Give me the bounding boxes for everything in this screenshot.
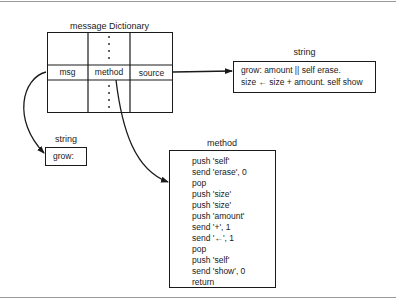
method-line: push 'amount' [192, 211, 244, 222]
arrow-msg-to-string [24, 72, 46, 153]
msg-string-label: string [45, 134, 87, 144]
method-line: send '←', 1 [192, 233, 234, 244]
method-line: pop [192, 244, 206, 255]
msg-string-value: grow: [53, 151, 74, 162]
column-msg: msg [47, 67, 88, 77]
source-string-label: string [233, 47, 376, 57]
method-line: send '+', 1 [192, 222, 230, 233]
column-method: method [88, 67, 130, 77]
column-source: source [130, 68, 173, 78]
method-line: push 'size' [192, 189, 231, 200]
source-line-2: size ← size + amount. self show [241, 77, 363, 88]
ellipsis-upper-icon [108, 36, 110, 59]
method-line: push 'self' [192, 156, 229, 167]
arrow-method-to-code [116, 80, 168, 182]
method-line: push 'self' [192, 255, 229, 266]
method-label: method [169, 138, 275, 148]
method-line: send 'show', 0 [192, 266, 245, 277]
method-line: pop [192, 178, 206, 189]
method-line: send 'erase', 0 [192, 167, 247, 178]
arrow-source-to-string [173, 71, 232, 72]
method-line: return [192, 277, 214, 288]
source-line-1: grow: amount || self erase. [241, 65, 341, 76]
ellipsis-lower-icon [108, 85, 110, 108]
method-line: push 'size' [192, 200, 231, 211]
